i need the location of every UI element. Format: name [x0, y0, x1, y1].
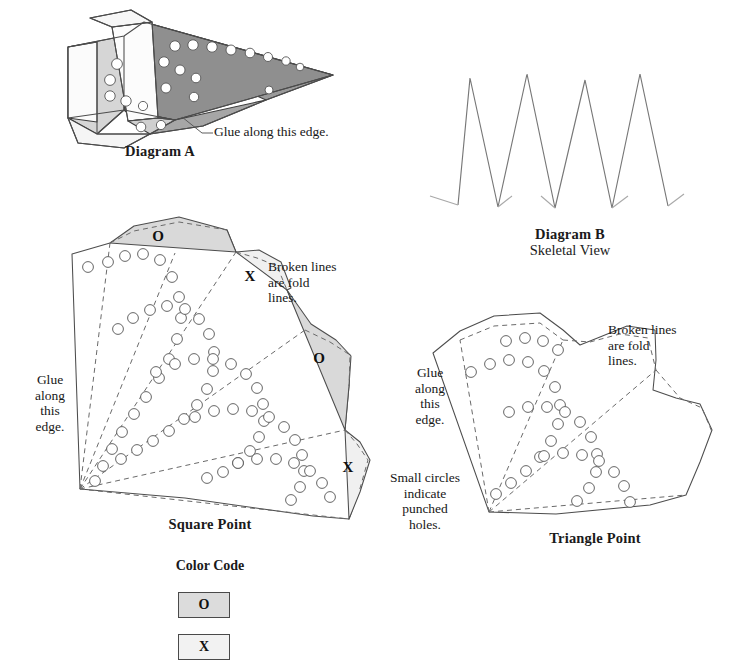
diagram-a-hole-2	[207, 42, 217, 52]
square-point-arc-3-hole-4	[226, 359, 237, 370]
square-point-tab-label-0: O	[152, 228, 164, 244]
square-point-arc-2-hole-4	[180, 304, 191, 315]
square-point-arc-1-hole-2	[120, 251, 131, 262]
diagram-a-glue-note: Glue along this edge.	[214, 124, 329, 140]
diagram-a-caption: Diagram A	[70, 143, 250, 159]
diagram-a-hole-14	[112, 59, 123, 70]
color-code-swatch-x: X	[178, 634, 230, 660]
note-line-2: this	[406, 396, 454, 412]
square-point-arc-1-hole-4	[155, 255, 166, 266]
square-point-arc-1-hole-6	[174, 292, 185, 303]
square-point-arc-2-hole-9	[202, 384, 213, 395]
triangle-point-arc-1-hole-2	[504, 355, 515, 366]
triangle-point-arc-1-hole-8	[546, 436, 557, 447]
diagram-b-caption-block: Diagram B Skeletal View	[485, 226, 655, 258]
square-point-arc-1-hole-16	[90, 476, 101, 487]
diagram-a-hole-13	[265, 86, 273, 94]
note-line-1: along	[26, 388, 74, 404]
triangle-point-arc-3-hole-0	[539, 451, 550, 462]
diagram-a-hole-15	[105, 75, 116, 86]
note-line-2: lines.	[608, 353, 700, 369]
triangle-point-arc-4-hole-0	[501, 336, 512, 347]
diagram-a-hole-16	[105, 91, 115, 101]
square-point-arc-3-hole-5	[241, 369, 252, 380]
note-line-3: holes.	[375, 517, 475, 533]
triangle-point-arc-2-hole-5	[586, 432, 597, 443]
square-point-arc-2-hole-12	[164, 426, 175, 437]
square-point-arc-2-hole-3	[162, 301, 173, 312]
diagram-a-hole-3	[226, 45, 236, 55]
triangle-point-arc-1-hole-10	[521, 466, 532, 477]
diagram-a-hole-10	[191, 73, 201, 83]
square-point-tab-label-3: X	[343, 459, 354, 475]
triangle-point-arc-1-hole-12	[491, 489, 502, 500]
triangle-point-arc-1-hole-0	[466, 367, 477, 378]
square-point-arc-2-hole-11	[179, 414, 190, 425]
diagram-a-hole-19	[136, 122, 146, 132]
square-point-arc-1-hole-12	[129, 409, 140, 420]
triangle-point-holes-note: Small circlesindicatepunchedholes.	[375, 470, 475, 533]
note-line-2: lines.	[268, 290, 360, 306]
diagram-a-hole-8	[159, 57, 169, 67]
square-point-arc-5-hole-2	[271, 454, 282, 465]
square-point-arc-1-hole-8	[172, 334, 183, 345]
triangle-point-fold-note: Broken linesare foldlines.	[608, 322, 700, 369]
triangle-point-arc-2-hole-9	[572, 496, 583, 507]
square-point-arc-5-hole-1	[252, 454, 263, 465]
square-point-arc-1-hole-14	[107, 444, 118, 455]
triangle-point-arc-2-hole-4	[575, 417, 586, 428]
square-point-arc-1-hole-3	[138, 249, 149, 260]
square-point-arc-2-hole-0	[113, 324, 124, 335]
square-point-tab-label-1: X	[245, 268, 256, 284]
triangle-point-arc-1-hole-5	[550, 382, 561, 393]
triangle-point-arc-3-hole-6	[625, 497, 636, 508]
note-line-1: along	[406, 381, 454, 397]
square-point-arc-1-hole-11	[141, 392, 152, 403]
square-point-arc-3-hole-7	[258, 399, 269, 410]
triangle-point-arc-1-hole-7	[553, 419, 564, 430]
square-point-arc-2-hole-15	[116, 454, 127, 465]
square-point-arc-3-hole-9	[254, 432, 265, 443]
square-point-arc-4-hole-6	[290, 435, 301, 446]
facet-body-front-white	[68, 42, 97, 122]
triangle-point-arc-2-hole-8	[584, 483, 595, 494]
diagram-a-hole-20	[156, 120, 165, 129]
note-line-0: Broken lines	[608, 322, 700, 338]
color-code-title: Color Code	[160, 558, 260, 574]
diagram-a-hole-0	[170, 41, 180, 51]
square-point-arc-5-hole-3	[289, 458, 300, 469]
square-point-arc-2-hole-10	[192, 400, 203, 411]
square-point-arc-3-hole-0	[151, 367, 162, 378]
triangle-point-arc-3-hole-3	[594, 456, 605, 467]
square-point-fold-note: Broken linesare foldlines.	[268, 259, 360, 306]
diagram-a-hole-17	[121, 96, 131, 106]
triangle-point-arc-1-hole-4	[539, 366, 550, 377]
square-point-arc-4-hole-3	[247, 406, 258, 417]
diagram-a-hole-9	[175, 65, 185, 75]
diagram-b-illustration	[430, 74, 684, 208]
skeletal-tab-4	[668, 194, 684, 206]
triangle-point-arc-3-hole-4	[609, 467, 620, 478]
square-point-arc-4-hole-2	[228, 404, 239, 415]
square-point-tab-label-2: O	[313, 350, 325, 366]
square-point-arc-1-hole-5	[167, 272, 178, 283]
square-point-arc-3-hole-12	[218, 467, 229, 478]
square-point-arc-4-hole-1	[209, 406, 220, 417]
color-code-swatch-o: O	[178, 592, 230, 618]
diagram-a-hole-7	[296, 63, 304, 71]
square-point-caption: Square Point	[135, 516, 285, 532]
diagram-a-hole-12	[189, 92, 198, 101]
square-point-arc-4-hole-0	[190, 412, 201, 423]
diagram-b-caption: Diagram B	[485, 226, 655, 242]
square-point-arc-3-hole-6	[252, 383, 263, 394]
note-line-0: Glue	[26, 372, 74, 388]
note-line-1: are fold	[268, 275, 360, 291]
square-point-arc-3-hole-3	[208, 354, 219, 365]
note-line-0: Broken lines	[268, 259, 360, 275]
square-point-arc-1-hole-15	[98, 461, 109, 472]
square-point-arc-2-hole-13	[148, 436, 159, 447]
note-line-2: this	[26, 403, 74, 419]
triangle-point-arc-2-hole-3	[560, 407, 571, 418]
diagram-a-hole-18	[138, 101, 147, 110]
square-point-arc-4-hole-7	[297, 450, 308, 461]
